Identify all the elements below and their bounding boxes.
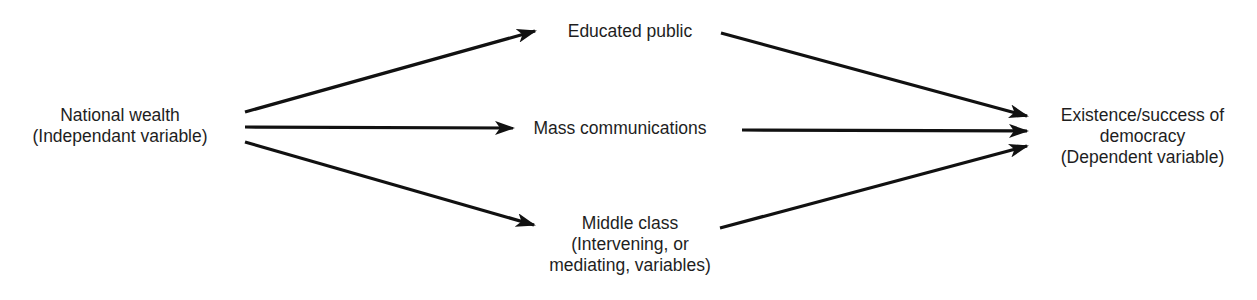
node-democracy-title-2: democracy: [1030, 126, 1255, 147]
node-mass-communications: Mass communications: [520, 118, 720, 139]
arrow-wealth-to-educated-public: [245, 31, 535, 112]
node-national-wealth: National wealth (Independant variable): [4, 105, 236, 147]
node-mass-communications-title: Mass communications: [520, 118, 720, 139]
node-democracy: Existence/success of democracy (Dependen…: [1030, 105, 1255, 168]
node-middle-class-subtitle-2: mediating, variables): [525, 255, 735, 276]
arrow-mass-communications-to-democracy: [742, 130, 1027, 131]
node-national-wealth-subtitle: (Independant variable): [4, 126, 236, 147]
node-educated-public-title: Educated public: [540, 21, 720, 42]
node-middle-class: Middle class (Intervening, or mediating,…: [525, 213, 735, 276]
node-democracy-subtitle: (Dependent variable): [1030, 147, 1255, 168]
node-national-wealth-title: National wealth: [4, 105, 236, 126]
arrow-wealth-to-mass-communications: [245, 127, 513, 128]
node-democracy-title: Existence/success of: [1030, 105, 1255, 126]
arrow-educated-public-to-democracy: [721, 33, 1027, 116]
node-middle-class-subtitle-1: (Intervening, or: [525, 234, 735, 255]
arrow-wealth-to-middle-class: [245, 142, 534, 225]
diagram-canvas: National wealth (Independant variable) E…: [0, 0, 1257, 300]
node-middle-class-title: Middle class: [525, 213, 735, 234]
node-educated-public: Educated public: [540, 21, 720, 42]
arrow-middle-class-to-democracy: [720, 146, 1027, 228]
